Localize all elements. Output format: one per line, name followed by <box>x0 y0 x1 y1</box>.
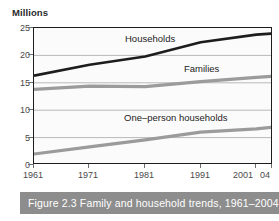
x-tick-mark-1991 <box>200 164 201 168</box>
figure-caption-bar: Figure 2.3 Family and household trends, … <box>20 192 279 214</box>
series-label-one-person-households: One–person households <box>122 112 230 123</box>
series-label-families: Families <box>182 63 221 74</box>
y-tick-label-15: 15 <box>10 78 30 88</box>
x-tick-mark-2004 <box>271 164 272 168</box>
y-tick-label-20: 20 <box>10 50 30 60</box>
y-tick-label-0: 0 <box>10 160 30 170</box>
x-tick-label-2001: 2001 <box>230 170 256 180</box>
plot-svg <box>34 28 272 164</box>
plot-area <box>33 27 272 164</box>
figure-caption-text: Figure 2.3 Family and household trends, … <box>20 197 279 209</box>
series-line-one-person-households <box>34 127 272 154</box>
x-tick-mark-1981 <box>144 164 145 168</box>
x-tick-label-2004: 04 <box>256 170 274 180</box>
x-tick-label-1961: 1961 <box>20 170 46 180</box>
x-tick-label-1991: 1991 <box>187 170 213 180</box>
series-label-households: Households <box>123 33 177 44</box>
y-axis-title: Millions <box>12 7 48 18</box>
x-tick-mark-1961 <box>33 164 34 168</box>
y-tick-label-25: 25 <box>10 23 30 33</box>
x-tick-mark-2001 <box>255 164 256 168</box>
x-tick-label-1981: 1981 <box>131 170 157 180</box>
y-tick-label-5: 5 <box>10 133 30 143</box>
figure-container: Millions 25 20 15 10 5 0 Households Fami… <box>0 0 279 221</box>
x-tick-mark-1971 <box>88 164 89 168</box>
x-tick-label-1971: 1971 <box>75 170 101 180</box>
y-tick-label-10: 10 <box>10 105 30 115</box>
